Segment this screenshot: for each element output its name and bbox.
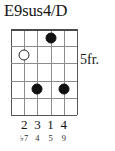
interval-degree-string-3: 4 (35, 133, 39, 144)
nut-line (11, 29, 77, 31)
fret-line-4 (11, 98, 77, 99)
finger-dot-marker (45, 32, 56, 43)
interval-degree-row: ♭7459 (11, 133, 77, 147)
string-line-5 (64, 29, 65, 115)
open-note-marker (19, 49, 30, 60)
fret-line-5 (11, 115, 77, 116)
fret-line-3 (11, 81, 77, 82)
string-line-3 (37, 29, 38, 115)
chord-diagram-card: E9sus4/D 5fr. 2314 ♭7459 (0, 0, 115, 151)
finger-number-string-2: 2 (21, 118, 28, 132)
fret-line-1 (11, 46, 77, 47)
string-line-1 (11, 29, 12, 115)
finger-number-string-3: 3 (34, 118, 41, 132)
chord-name-title: E9sus4/D (4, 1, 67, 21)
fretboard-grid (11, 29, 77, 115)
finger-dot-marker (58, 84, 69, 95)
string-line-2 (24, 29, 25, 115)
interval-degree-string-5: 9 (62, 133, 66, 144)
string-line-6 (77, 29, 78, 115)
interval-degree-string-2: ♭7 (20, 133, 28, 144)
fret-line-2 (11, 63, 77, 64)
interval-degree-string-4: 5 (48, 133, 52, 144)
fret-position-label: 5fr. (80, 52, 99, 68)
finger-number-string-5: 4 (61, 118, 68, 132)
fingering-number-row: 2314 (11, 118, 77, 132)
finger-number-string-4: 1 (47, 118, 54, 132)
finger-dot-marker (32, 84, 43, 95)
